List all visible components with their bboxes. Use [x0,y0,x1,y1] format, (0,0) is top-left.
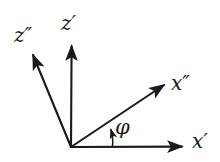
axis-label-x-double-prime: x″ [171,73,190,93]
axis-label-z-prime: z′ [61,13,76,33]
axis-label-x-prime: x′ [192,131,208,151]
phi-angle-arc [111,130,113,147]
axis-line-z-double-prime [33,55,71,147]
coordinate-axes-diagram: z″ z′ x″ x′ φ [0,0,220,162]
axis-label-z-double-prime: z″ [14,25,32,45]
axis-line-z-prime [71,46,72,147]
phi-angle-label: φ [115,117,130,138]
